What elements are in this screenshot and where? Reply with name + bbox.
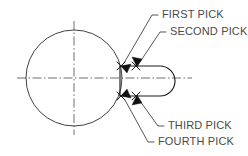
label-first-pick: FIRST PICK xyxy=(162,8,224,20)
label-fourth-pick: FOURTH PICK xyxy=(158,135,235,147)
leader-line-first-pick xyxy=(124,15,158,63)
engineering-drawing-svg: FIRST PICK SECOND PICK THIRD PICK FOURTH… xyxy=(0,0,248,156)
label-third-pick: THIRD PICK xyxy=(168,119,232,131)
drawing-canvas: FIRST PICK SECOND PICK THIRD PICK FOURTH… xyxy=(0,0,248,156)
arrowhead-first-pick xyxy=(121,64,131,73)
arrowhead-fourth-pick xyxy=(121,89,131,98)
label-second-pick: SECOND PICK xyxy=(170,25,248,37)
leader-line-fourth-pick xyxy=(125,100,154,142)
leader-line-third-pick xyxy=(140,101,164,126)
leader-line-second-pick xyxy=(140,32,166,62)
